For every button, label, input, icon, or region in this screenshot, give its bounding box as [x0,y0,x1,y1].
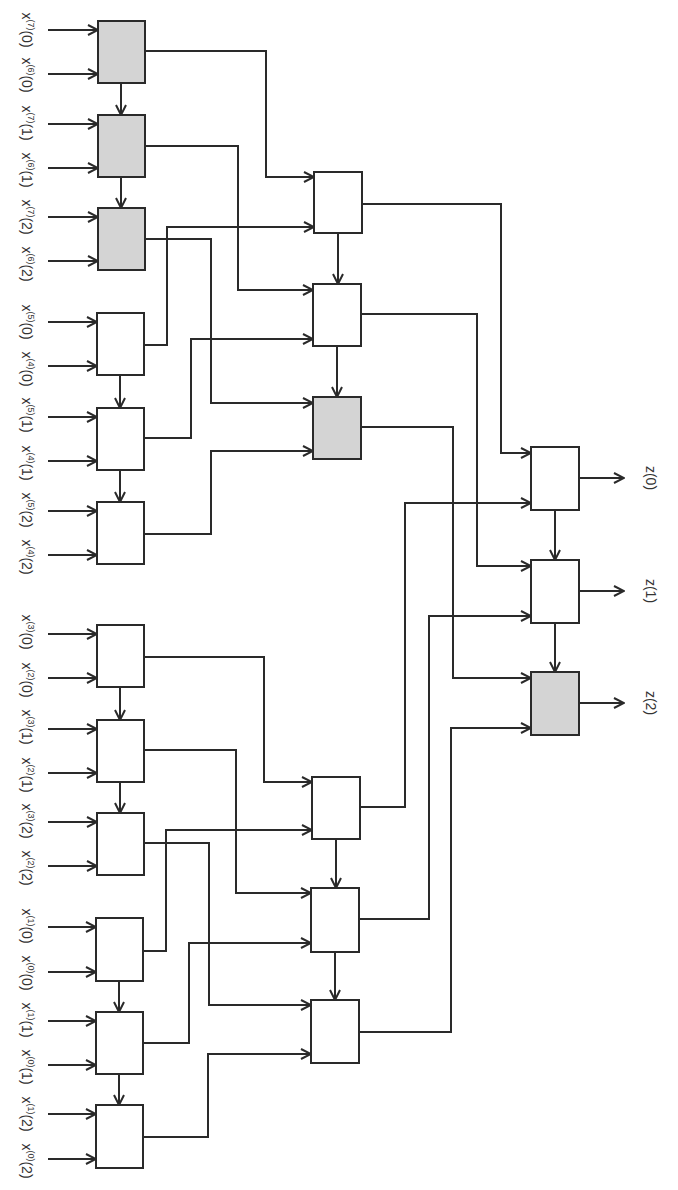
input-label: x(5)(0) [19,304,36,339]
block-s1-9 [96,918,143,981]
output-label: z(0) [643,466,659,490]
input-label: x(4)(0) [19,351,36,386]
input-label: x(7)(0) [19,12,36,47]
wire-s2-2-to-s3-2 [361,427,531,678]
wire-s1-2-to-s2-2 [145,239,313,403]
input-label: x(5)(1) [19,397,36,432]
wire-s1-1-to-s2-1 [145,146,313,290]
input-label: x(0)(0) [19,955,36,990]
block-s1-7 [97,720,144,782]
input-label: x(6)(1) [19,152,36,187]
wire-s1-8-to-s2-5 [144,843,311,1005]
wire-s1-11-to-s2-5 [143,1054,311,1137]
block-s2-4 [311,888,359,952]
output-label: z(1) [643,579,659,603]
wire-s1-0-to-s2-0 [145,51,314,177]
wire-s1-4-to-s2-1 [144,339,313,438]
input-label: x(4)(1) [19,445,36,480]
wire-s1-3-to-s2-0 [144,227,314,345]
wire-s1-7-to-s2-4 [144,750,311,893]
wire-s1-9-to-s2-3 [143,830,312,951]
block-s2-3 [312,777,360,839]
input-arrows [48,30,98,1159]
input-label: x(2)(2) [19,850,36,885]
wire-s2-3-to-s3-0 [360,503,531,807]
block-s3-2-shaded [531,672,579,735]
input-label: x(5)(2) [19,492,36,527]
block-s2-0 [314,172,362,233]
block-s1-2-shaded [98,208,145,270]
blocks [96,21,579,1168]
input-label: x(2)(0) [19,662,36,697]
wire-s1-10-to-s2-4 [143,943,311,1043]
input-label: x(7)(1) [19,105,36,140]
block-s1-11 [96,1105,143,1168]
input-label: x(2)(1) [19,757,36,792]
block-s2-1 [313,284,361,346]
input-label: x(3)(1) [19,709,36,744]
input-label: x(3)(0) [19,614,36,649]
block-s3-0 [531,447,579,510]
input-label: x(7)(2) [19,199,36,234]
block-s1-1-shaded [98,115,145,177]
input-label: x(1)(0) [19,908,36,943]
block-s1-0-shaded [98,21,145,83]
input-label: x(0)(1) [19,1049,36,1084]
block-s1-6 [97,625,144,687]
input-label: x(6)(2) [19,246,36,281]
wire-s2-5-to-s3-2 [359,728,531,1032]
block-s1-5 [97,502,144,564]
input-label: x(0)(2) [19,1143,36,1178]
block-s2-2-shaded [313,397,361,459]
input-label: x(6)(0) [19,57,36,92]
block-s1-10 [96,1012,143,1074]
wire-s1-6-to-s2-3 [144,657,312,782]
block-s1-4 [97,408,144,470]
wire-s2-1-to-s3-1 [361,314,531,566]
input-label: x(4)(2) [19,539,36,574]
block-s1-3 [97,313,144,375]
input-label: x(1)(1) [19,1002,36,1037]
block-s3-1 [531,560,579,623]
wire-s1-5-to-s2-2 [144,451,313,534]
wire-s2-4-to-s3-1 [359,616,531,919]
block-s2-5 [311,1000,359,1063]
wire-s2-0-to-s3-0 [362,204,531,453]
block-diagram: x(7)(0)x(6)(0)x(7)(1)x(6)(1)x(7)(2)x(6)(… [0,0,678,1190]
input-label: x(3)(2) [19,803,36,838]
input-label: x(1)(2) [19,1096,36,1131]
output-label: z(2) [643,691,659,715]
block-s1-8 [97,813,144,875]
